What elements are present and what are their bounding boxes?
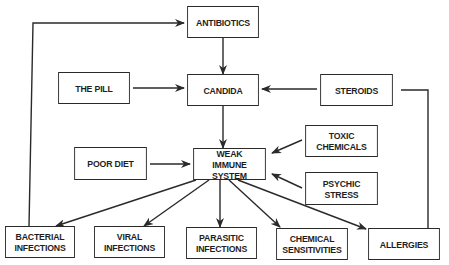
node-the-pill-label: THE PILL: [75, 83, 112, 94]
node-parasitic-infections: PARASITIC INFECTIONS: [186, 227, 257, 259]
node-chemical-sensitivities-line-1: CHEMICAL: [282, 233, 341, 244]
node-poor-diet-label: POOR DIET: [87, 158, 133, 169]
edge-weak-immune-system-to-bacterial-infections: [56, 180, 196, 226]
edge-toxic-chemicals-to-weak-immune-system: [272, 140, 302, 153]
node-weak-immune-system-line-1: WEAK: [194, 148, 265, 159]
node-candida-label: CANDIDA: [203, 85, 242, 96]
node-steroids-label: STEROIDS: [335, 85, 378, 96]
node-toxic-chemicals-line-2: CHEMICALS: [316, 141, 366, 152]
node-bacterial-infections-line-1: BACTERIAL: [14, 231, 65, 242]
edge-psychic-stress-to-weak-immune-system: [272, 174, 302, 188]
node-antibiotics: ANTIBIOTICS: [187, 6, 259, 38]
node-candida: CANDIDA: [187, 74, 259, 106]
node-antibiotics-label: ANTIBIOTICS: [196, 17, 250, 28]
node-toxic-chemicals-line-1: TOXIC: [316, 130, 366, 141]
node-steroids: STEROIDS: [320, 74, 393, 106]
node-chemical-sensitivities-line-2: SENSITIVITIES: [282, 244, 341, 255]
node-viral-infections-line-2: INFECTIONS: [104, 242, 155, 253]
node-psychic-stress-line-1: PSYCHIC: [323, 178, 361, 189]
node-viral-infections-line-1: VIRAL: [104, 231, 155, 242]
node-parasitic-infections-line-1: PARASITIC: [196, 232, 247, 243]
node-poor-diet: POOR DIET: [74, 147, 147, 180]
node-parasitic-infections-line-2: INFECTIONS: [196, 243, 247, 254]
node-chemical-sensitivities: CHEMICAL SENSITIVITIES: [276, 228, 348, 260]
node-allergies-label: ALLERGIES: [380, 239, 428, 250]
node-allergies: ALLERGIES: [368, 228, 440, 260]
edge-bacterial-infections-to-antibiotics: [29, 23, 184, 226]
candida-flow-diagram: ANTIBIOTICS THE PILL CANDIDA STEROIDS TO…: [0, 0, 449, 265]
edge-allergies-to-steroids: [401, 90, 428, 228]
node-toxic-chemicals: TOXIC CHEMICALS: [305, 125, 378, 157]
node-bacterial-infections-line-2: INFECTIONS: [14, 242, 65, 253]
node-psychic-stress-line-2: STRESS: [323, 189, 361, 200]
node-bacterial-infections: BACTERIAL INFECTIONS: [5, 226, 75, 258]
node-weak-immune-system-line-2: IMMUNE SYSTEM: [194, 159, 265, 181]
node-psychic-stress: PSYCHIC STRESS: [305, 172, 378, 205]
node-viral-infections: VIRAL INFECTIONS: [94, 226, 165, 258]
node-weak-immune-system: WEAK IMMUNE SYSTEM: [193, 148, 266, 180]
node-the-pill: THE PILL: [58, 72, 130, 104]
